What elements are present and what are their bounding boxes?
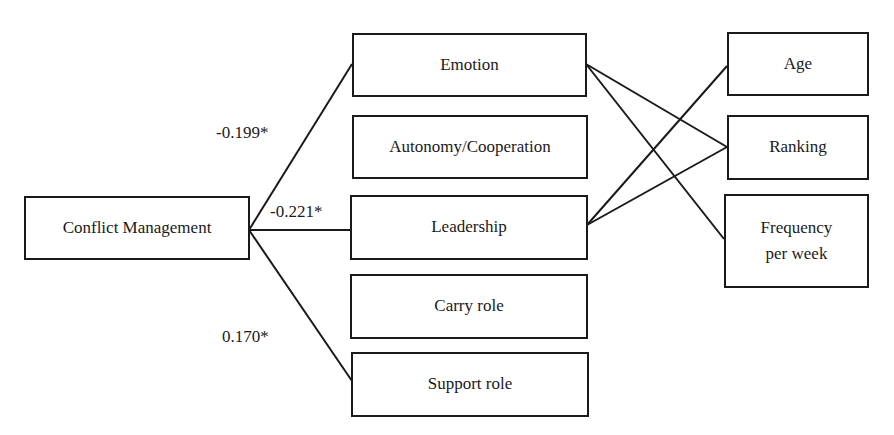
- node-label: Leadership: [431, 214, 507, 240]
- edge-conflict-support: [249, 230, 352, 381]
- node-autonomy-cooperation: Autonomy/Cooperation: [352, 115, 588, 179]
- node-frequency-per-week: Frequency per week: [724, 194, 869, 288]
- node-emotion: Emotion: [352, 33, 587, 97]
- edge-leadership-ranking: [587, 147, 727, 225]
- node-label: Frequency per week: [748, 215, 845, 268]
- node-label: Autonomy/Cooperation: [389, 134, 550, 160]
- edge-emotion-frequency: [586, 64, 724, 239]
- node-label: Carry role: [434, 293, 503, 319]
- node-age: Age: [727, 32, 869, 96]
- coefficient-leadership: -0.221*: [270, 203, 322, 220]
- node-label: Support role: [428, 371, 513, 397]
- node-carry-role: Carry role: [350, 274, 588, 339]
- node-ranking: Ranking: [727, 115, 869, 180]
- node-label: Conflict Management: [63, 215, 212, 241]
- node-leadership: Leadership: [350, 195, 588, 260]
- coefficient-emotion: -0.199*: [216, 124, 268, 141]
- coefficient-support-role: 0.170*: [222, 328, 269, 345]
- node-label: Age: [784, 51, 812, 77]
- node-conflict-management: Conflict Management: [24, 196, 250, 260]
- edge-leadership-age: [587, 66, 727, 225]
- node-label: Emotion: [440, 52, 499, 78]
- path-diagram: Conflict Management Emotion Autonomy/Coo…: [0, 0, 894, 435]
- node-label: Ranking: [769, 134, 827, 160]
- edge-emotion-ranking: [586, 64, 727, 147]
- node-support-role: Support role: [351, 352, 589, 417]
